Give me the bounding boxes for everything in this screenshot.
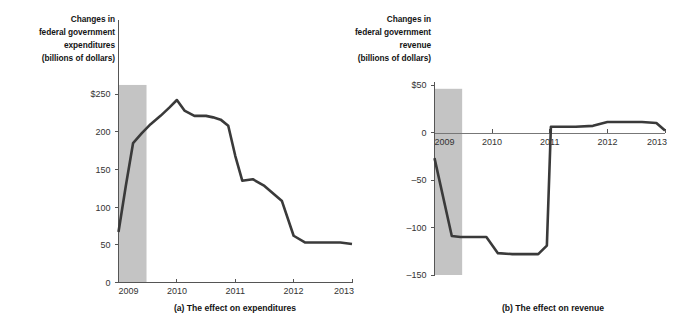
panel-revenue: Changes in federal government revenue (b… <box>355 14 667 313</box>
panel-a-ytick-label: 200 <box>95 127 110 137</box>
panel-a-data-line <box>119 100 353 244</box>
panel-b-ytick-label: –50 <box>411 175 426 185</box>
panel-a-xtick-group: 20092010201120122013 <box>118 279 354 297</box>
panel-a-ytick-group: $250200150100500 <box>90 89 118 288</box>
panel-a-plot: $250200150100500 20092010201120122013 <box>90 20 354 296</box>
panel-b-title-line-3: revenue <box>400 40 432 50</box>
panel-a-xtick-label: 2010 <box>167 286 187 296</box>
panel-a-ytick-label: 100 <box>95 203 110 213</box>
panel-a-title-line-1: Changes in <box>71 14 115 24</box>
panel-a-xtick-label: 2013 <box>334 286 354 296</box>
panel-b-caption: (b) The effect on revenue <box>502 303 604 313</box>
panel-a-title-line-3: expenditures <box>64 40 115 50</box>
panel-expenditures: Changes in federal government expenditur… <box>39 14 354 313</box>
panel-b-data-line <box>435 122 666 254</box>
panel-b-ytick-label: –100 <box>406 223 426 233</box>
panel-a-recession-band <box>119 85 147 283</box>
panel-b-title-line-4: (billions of dollars) <box>358 53 431 63</box>
panel-b-ytick-label: –150 <box>406 270 426 280</box>
panel-a-ytick-label: 50 <box>100 240 110 250</box>
panel-a-xtick-label: 2012 <box>284 286 304 296</box>
panel-a-axis-title: Changes in federal government expenditur… <box>39 14 116 63</box>
panel-a-xtick-label: 2009 <box>118 286 138 296</box>
panel-b-xtick-label: 2009 <box>434 137 454 147</box>
panel-a-ytick-label: $250 <box>90 89 110 99</box>
panel-b-title-line-1: Changes in <box>387 14 431 24</box>
panel-a-xtick-label: 2011 <box>226 286 245 296</box>
panel-a-title-line-4: (billions of dollars) <box>42 53 115 63</box>
panel-a-title-line-2: federal government <box>39 27 115 37</box>
panel-b-xtick-label: 2010 <box>482 137 502 147</box>
panel-b-xtick-label: 2013 <box>647 137 667 147</box>
panel-b-axis-title: Changes in federal government revenue (b… <box>355 14 432 63</box>
panel-b-title-line-2: federal government <box>355 27 431 37</box>
panel-b-plot: $500–50–100–150 20092010201120122013 <box>406 80 667 280</box>
panel-a-caption: (a) The effect on expenditures <box>174 303 296 313</box>
panel-a-ytick-label: 150 <box>95 165 110 175</box>
panel-b-ytick-label: $50 <box>411 80 426 90</box>
panel-b-ytick-label: 0 <box>421 128 426 138</box>
figure-root: Changes in federal government expenditur… <box>0 0 676 331</box>
panel-a-ytick-label: 0 <box>105 278 110 288</box>
panel-b-ytick-group: $500–50–100–150 <box>406 80 434 280</box>
panel-b-xtick-label: 2012 <box>597 137 617 147</box>
